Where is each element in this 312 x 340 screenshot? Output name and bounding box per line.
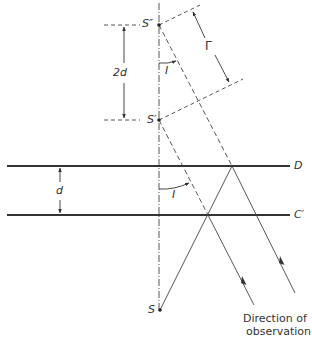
wavefront-upper	[159, 5, 200, 25]
wavefront-lower	[159, 79, 243, 120]
ray-s-to-d	[160, 166, 232, 310]
label-d: d	[56, 184, 63, 197]
ray-arrowhead-1	[241, 276, 247, 285]
label-plane-d: D	[294, 159, 302, 172]
label-angle-lower: I	[172, 188, 175, 201]
label-gamma: Γ	[205, 39, 212, 53]
optics-diagram	[0, 0, 312, 340]
point-s-double-prime	[157, 23, 161, 27]
ray-reflected-2	[232, 166, 295, 293]
label-s-prime: S′	[147, 113, 156, 126]
label-s: S	[148, 303, 155, 316]
label-two-d: 2d	[113, 66, 127, 79]
angle-arc-upper	[159, 61, 176, 63]
point-s-prime	[157, 118, 161, 122]
virtual-ray-from-s-prime	[159, 120, 208, 215]
label-s-double-prime: S″	[142, 17, 153, 30]
virtual-ray-from-s-double-prime	[159, 25, 232, 166]
point-s	[158, 308, 162, 312]
ray-reflected-1	[208, 215, 254, 305]
ray-arrowhead-2	[279, 256, 285, 265]
gamma-arrow-top	[193, 12, 205, 38]
label-plane-c-prime: C′	[294, 208, 304, 221]
caption-direction-line2: observation	[246, 325, 311, 338]
gamma-arrow-bottom	[215, 55, 229, 82]
label-angle-upper: I	[165, 64, 168, 77]
caption-direction-line1: Direction of	[243, 312, 307, 325]
